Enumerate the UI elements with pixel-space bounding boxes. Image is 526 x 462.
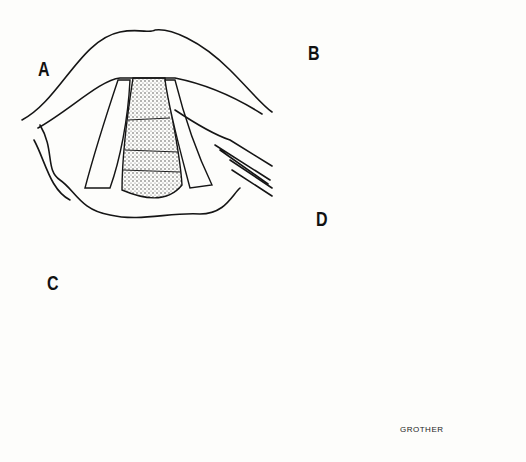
artist-signature: GROTHER [400,425,444,434]
medical-illustration: A B C D GROTHER [0,0,526,462]
panel-a-drawing [22,30,272,218]
panel-label-d: D [316,208,328,231]
panel-label-c: C [47,272,59,295]
panel-label-a: A [38,58,50,81]
illustration-canvas [0,0,526,462]
panel-label-b: B [308,42,320,65]
